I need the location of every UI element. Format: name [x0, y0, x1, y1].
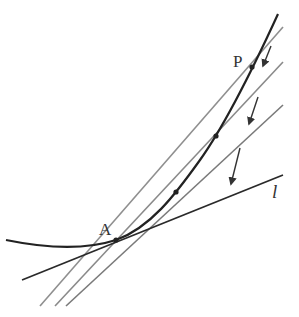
tangent-limit-diagram: A P l [0, 0, 299, 317]
secant-line-ap [40, 27, 283, 306]
label-tangent-l: l [272, 181, 277, 202]
secant-line-3 [66, 105, 283, 306]
point-a-dot [113, 237, 118, 242]
arrow-icon [249, 97, 258, 124]
arrow-icon [231, 148, 240, 184]
intermediate-point-dot [173, 189, 178, 194]
secant-line-2 [55, 62, 283, 306]
intermediate-point-dot [213, 133, 218, 138]
point-p-dot [249, 64, 254, 69]
tangent-line-l [22, 175, 283, 280]
label-p: P [233, 52, 242, 71]
label-a: A [99, 220, 112, 239]
